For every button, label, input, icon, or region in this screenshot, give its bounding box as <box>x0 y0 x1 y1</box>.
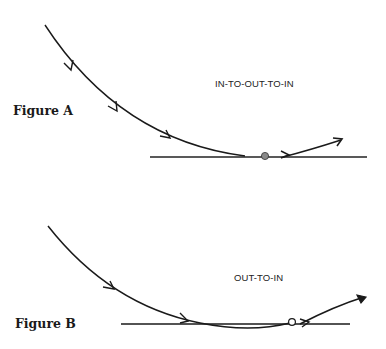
exit-path-b <box>300 297 364 324</box>
arrow-icon <box>108 101 117 111</box>
swing-path-diagram <box>0 0 386 349</box>
figure-a-drawing <box>45 25 367 160</box>
arrowhead-icon <box>357 295 366 303</box>
ball-icon <box>261 152 268 159</box>
figure-a-label: Figure A <box>13 103 73 118</box>
figure-a-path-label: IN-TO-OUT-TO-IN <box>215 78 294 89</box>
exit-path-a <box>283 140 341 157</box>
figure-b-path-label: OUT-TO-IN <box>234 272 283 283</box>
figure-b-label: Figure B <box>15 316 76 331</box>
ball-icon <box>289 319 296 326</box>
swing-arc-a <box>45 25 245 156</box>
figure-b-drawing <box>48 226 366 328</box>
